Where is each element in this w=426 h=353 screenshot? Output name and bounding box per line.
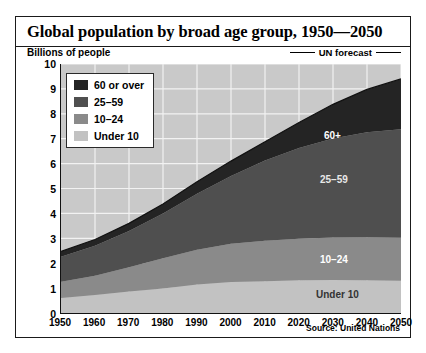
x-tick-label: 1990: [185, 317, 207, 328]
x-tick-label: 1970: [117, 317, 139, 328]
forecast-note-label: UN forecast: [319, 47, 372, 58]
legend-item-label: 10–24: [94, 113, 123, 125]
chart-figure: Global population by broad age group, 19…: [15, 16, 411, 338]
y-tick-label: 3: [50, 233, 56, 245]
legend-swatch-icon: [74, 114, 88, 124]
legend-item-label: Under 10: [94, 130, 139, 142]
y-tick-label: 4: [50, 208, 56, 220]
source-note: Source: United Nations: [306, 323, 400, 333]
x-tick-label: 1980: [151, 317, 173, 328]
legend-item: 25–59: [74, 96, 144, 108]
y-axis-tick-labels: 012345678910: [30, 64, 56, 314]
x-tick-label: 2010: [253, 317, 275, 328]
y-tick-label: 8: [50, 108, 56, 120]
title-container: Global population by broad age group, 19…: [16, 17, 410, 47]
y-tick-label: 10: [44, 58, 56, 70]
chart-legend: 60 or over25–5910–24Under 10: [66, 73, 154, 148]
subheader-row: Billions of people UN forecast: [27, 47, 401, 61]
y-tick-label: 1: [50, 283, 56, 295]
x-tick-label: 1950: [49, 317, 71, 328]
y-tick-label: 5: [50, 183, 56, 195]
legend-swatch-icon: [74, 97, 88, 107]
un-forecast-note: UN forecast: [290, 47, 401, 58]
y-tick-label: 9: [50, 83, 56, 95]
forecast-rule-right-icon: [376, 52, 401, 54]
legend-item: 60 or over: [74, 79, 144, 91]
legend-item: Under 10: [74, 130, 144, 142]
page-title: Global population by broad age group, 19…: [27, 22, 399, 42]
y-tick-label: 7: [50, 133, 56, 145]
x-tick-label: 2000: [219, 317, 241, 328]
forecast-rule-left-icon: [290, 52, 315, 54]
y-tick-label: 6: [50, 158, 56, 170]
legend-swatch-icon: [74, 131, 88, 141]
legend-item-label: 25–59: [94, 96, 123, 108]
legend-swatch-icon: [74, 80, 88, 90]
legend-item: 10–24: [74, 113, 144, 125]
y-tick-label: 2: [50, 258, 56, 270]
y-axis-unit-label: Billions of people: [27, 47, 110, 58]
legend-item-label: 60 or over: [94, 79, 144, 91]
x-tick-label: 1960: [83, 317, 105, 328]
